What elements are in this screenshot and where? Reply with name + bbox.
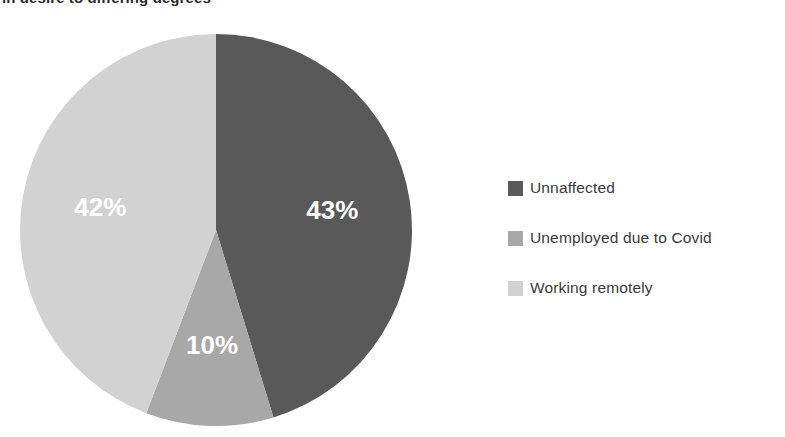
legend-swatch-icon	[508, 181, 523, 196]
legend-item-label: Unnaffected	[530, 179, 615, 197]
caption-text: in desire to differing degrees	[2, 0, 211, 6]
pie-slice-value-label: 10%	[186, 330, 238, 360]
legend-item-working-remotely[interactable]: Working remotely	[508, 263, 780, 313]
legend-item-label: Working remotely	[530, 279, 653, 297]
legend: Unnaffected Unemployed due to Covid Work…	[508, 163, 780, 313]
caption-clipped-region: in desire to differing degrees	[0, 0, 420, 9]
chart-page: in desire to differing degrees 43%10%42%…	[0, 0, 785, 437]
pie-chart: 43%10%42%	[20, 34, 412, 426]
legend-swatch-icon	[508, 231, 523, 246]
pie-slice-value-label: 42%	[74, 192, 126, 222]
pie-slice-group	[20, 34, 412, 426]
legend-item-label: Unemployed due to Covid	[530, 229, 712, 247]
legend-item-unnaffected[interactable]: Unnaffected	[508, 163, 780, 213]
legend-item-unemployed-due-to-covid[interactable]: Unemployed due to Covid	[508, 213, 780, 263]
pie-slice-value-label: 43%	[306, 195, 358, 225]
legend-swatch-icon	[508, 281, 523, 296]
pie-chart-svg: 43%10%42%	[20, 34, 412, 426]
